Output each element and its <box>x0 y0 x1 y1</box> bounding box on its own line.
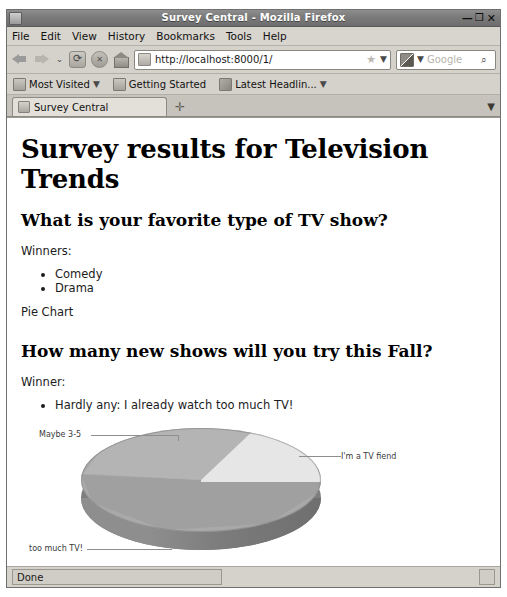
search-bar[interactable]: ▼ Google ⌕ <box>396 50 496 70</box>
search-input[interactable]: Google <box>427 54 478 65</box>
window-title: Survey Central - Mozilla Firefox <box>7 10 500 26</box>
pie-chart: Maybe 3-5 I'm a TV fiend too much TV! <box>21 422 481 566</box>
desktop-background: Survey Central - Mozilla Firefox — ❐ ✕ F… <box>0 0 507 597</box>
bookmarks-toolbar: Most Visited ▼ Getting Started Latest He… <box>7 74 500 95</box>
back-icon[interactable] <box>11 51 28 68</box>
minimize-button[interactable]: — <box>462 13 472 24</box>
pie-leader-tick-maybe <box>178 435 179 441</box>
pie-chart-graphic <box>81 428 321 564</box>
window-controls: — ❐ ✕ <box>462 13 500 24</box>
bookmark-latest-headlines[interactable]: Latest Headlin... ▼ <box>219 78 327 91</box>
tab-label: Survey Central <box>34 102 108 113</box>
address-dropdown-icon[interactable]: ▼ <box>380 55 387 64</box>
list-item: Drama <box>55 281 486 295</box>
url-input[interactable]: http://localhost:8000/1/ <box>155 54 362 65</box>
getting-started-icon <box>113 78 126 91</box>
menu-history[interactable]: History <box>108 30 145 42</box>
bookmark-getting-started[interactable]: Getting Started <box>113 78 206 91</box>
pie-chart-caption: Pie Chart <box>21 305 486 319</box>
status-text: Done <box>12 569 222 585</box>
list-item: Hardly any: I already watch too much TV! <box>55 398 486 412</box>
pie-leader-line-maybe <box>91 435 179 436</box>
chevron-down-icon: ▼ <box>93 80 100 89</box>
tab-survey-central[interactable]: Survey Central <box>12 97 167 116</box>
menu-bar: File Edit View History Bookmarks Tools H… <box>7 27 500 46</box>
bookmark-label: Getting Started <box>129 79 206 90</box>
menu-file[interactable]: File <box>12 30 30 42</box>
maximize-button[interactable]: ❐ <box>475 13 484 23</box>
winner-label-2: Winner: <box>21 375 486 389</box>
stop-icon[interactable] <box>91 51 108 68</box>
winners-list-1: Comedy Drama <box>21 267 486 295</box>
bookmark-most-visited[interactable]: Most Visited ▼ <box>13 78 100 91</box>
tab-list-dropdown-icon[interactable]: ▼ <box>482 96 500 116</box>
home-icon[interactable] <box>113 52 129 67</box>
tab-strip: Survey Central ✛ ▼ <box>7 95 500 117</box>
new-tab-button[interactable]: ✛ <box>167 98 193 116</box>
navigation-toolbar: ⌄ http://localhost:8000/1/ ★ ▼ ▼ Google … <box>7 46 500 74</box>
pie-label-tv-fiend: I'm a TV fiend <box>341 452 396 461</box>
menu-tools[interactable]: Tools <box>226 30 252 42</box>
browser-window: Survey Central - Mozilla Firefox — ❐ ✕ F… <box>6 9 501 588</box>
reload-icon[interactable] <box>69 51 86 68</box>
section-heading-2: How many new shows will you try this Fal… <box>21 341 486 361</box>
page-favicon-icon <box>138 53 151 66</box>
pie-leader-line-fiend <box>299 456 341 457</box>
winners-label-1: Winners: <box>21 244 486 258</box>
bookmark-label: Most Visited <box>29 79 90 90</box>
page-title: Survey results for Television Trends <box>21 134 486 194</box>
close-button[interactable]: ✕ <box>487 13 496 24</box>
bookmark-label: Latest Headlin... <box>235 79 317 90</box>
rss-feed-icon <box>219 78 232 91</box>
search-engine-icon[interactable] <box>400 53 414 67</box>
menu-view[interactable]: View <box>72 30 97 42</box>
pie-leader-line-too-much <box>87 549 172 550</box>
section-heading-1: What is your favorite type of TV show? <box>21 210 486 230</box>
menu-bookmarks[interactable]: Bookmarks <box>156 30 215 42</box>
list-item: Comedy <box>55 267 486 281</box>
page-content: Survey results for Television Trends Wha… <box>7 118 500 566</box>
address-bar[interactable]: http://localhost:8000/1/ ★ ▼ <box>134 50 391 70</box>
status-bar: Done <box>7 566 500 587</box>
pie-label-maybe-3-5: Maybe 3-5 <box>39 430 81 439</box>
status-resize-grip[interactable] <box>479 569 495 585</box>
winners-list-2: Hardly any: I already watch too much TV! <box>21 398 486 412</box>
pie-label-too-much-tv: too much TV! <box>29 544 83 553</box>
menu-help[interactable]: Help <box>263 30 287 42</box>
search-engine-dropdown-icon[interactable]: ▼ <box>417 55 424 64</box>
chevron-down-icon: ▼ <box>320 80 327 89</box>
pie-top-face <box>81 428 321 532</box>
window-titlebar[interactable]: Survey Central - Mozilla Firefox — ❐ ✕ <box>7 10 500 27</box>
menu-edit[interactable]: Edit <box>41 30 61 42</box>
forward-icon[interactable] <box>33 51 50 68</box>
history-dropdown-icon[interactable]: ⌄ <box>55 51 64 68</box>
magnifier-icon[interactable]: ⌕ <box>481 55 492 65</box>
bookmark-star-icon[interactable]: ★ <box>366 54 376 65</box>
most-visited-icon <box>13 78 26 91</box>
tab-favicon-icon <box>18 101 30 113</box>
page-viewport: Survey results for Television Trends Wha… <box>7 117 500 566</box>
